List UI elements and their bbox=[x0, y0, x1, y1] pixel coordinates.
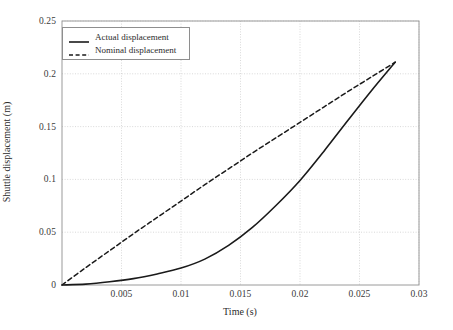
legend-label-nominal: Nominal displacement bbox=[95, 45, 176, 56]
series-line-1 bbox=[62, 62, 395, 285]
x-tick-label: 0.025 bbox=[349, 289, 371, 299]
legend-swatch-dashed-icon bbox=[68, 46, 90, 56]
legend-item-nominal: Nominal displacement bbox=[68, 44, 184, 57]
legend-swatch-solid-icon bbox=[68, 33, 90, 43]
series-line-2 bbox=[62, 62, 395, 285]
y-tick-label: 0.05 bbox=[18, 227, 56, 237]
legend-label-actual: Actual displacement bbox=[95, 32, 169, 43]
gridlines bbox=[62, 21, 419, 285]
y-tick-label: 0.25 bbox=[18, 16, 56, 26]
y-axis-title: Shuttle displacement (m) bbox=[1, 102, 12, 203]
legend-item-actual: Actual displacement bbox=[68, 31, 184, 44]
x-tick-label: 0.01 bbox=[172, 289, 189, 299]
x-tick-label: 0.02 bbox=[291, 289, 308, 299]
legend: Actual displacement Nominal displacement bbox=[62, 27, 190, 60]
y-tick-label: 0.1 bbox=[18, 174, 56, 184]
x-axis-title: Time (s) bbox=[223, 306, 257, 317]
y-tick-label: 0.15 bbox=[18, 122, 56, 132]
x-tick-label: 0.03 bbox=[410, 289, 427, 299]
series-lines bbox=[62, 62, 395, 285]
y-tick-label: 0 bbox=[18, 280, 56, 290]
x-tick-label: 0.015 bbox=[230, 289, 252, 299]
chart-figure: 00.050.10.150.20.25 0.0050.010.0150.020.… bbox=[0, 0, 453, 330]
x-tick-label: 0.005 bbox=[111, 289, 133, 299]
y-tick-label: 0.2 bbox=[18, 69, 56, 79]
